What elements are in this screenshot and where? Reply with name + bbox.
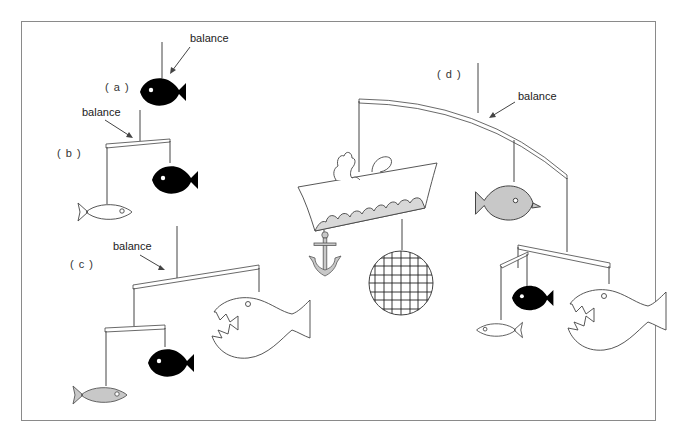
panel-a: ( a ) balance bbox=[105, 32, 229, 106]
boat-icon bbox=[298, 152, 437, 231]
panel-c-label: ( c ) bbox=[70, 258, 94, 270]
gray-fish-icon bbox=[73, 386, 127, 404]
black-fish-icon bbox=[148, 349, 194, 376]
black-fish-icon bbox=[512, 286, 553, 311]
black-fish-icon bbox=[140, 78, 186, 105]
panel-b: ( b ) balance bbox=[57, 106, 198, 221]
gray-round-fish-icon bbox=[476, 186, 541, 220]
white-fish-icon bbox=[78, 203, 132, 221]
black-fish-icon bbox=[152, 166, 198, 193]
panel-d-balance-label: balance bbox=[518, 90, 557, 102]
piranha-icon bbox=[568, 290, 666, 351]
panel-a-label: ( a ) bbox=[105, 81, 130, 93]
anchor-icon bbox=[309, 232, 341, 276]
white-fish-icon bbox=[477, 322, 523, 337]
panel-d-label: ( d ) bbox=[437, 68, 462, 80]
piranha-icon bbox=[212, 298, 310, 359]
panel-d: ( d ) balance bbox=[298, 63, 666, 350]
panel-a-balance-label: balance bbox=[190, 32, 229, 44]
panel-b-label: ( b ) bbox=[57, 147, 82, 159]
panel-c-balance-label: balance bbox=[113, 240, 152, 252]
panel-c: ( c ) balance bbox=[70, 226, 310, 404]
panel-b-balance-label: balance bbox=[82, 106, 121, 118]
mobile-diagram: ( a ) balance ( b ) balance ( c ) bala bbox=[0, 0, 673, 435]
net-ball-icon bbox=[360, 240, 440, 320]
